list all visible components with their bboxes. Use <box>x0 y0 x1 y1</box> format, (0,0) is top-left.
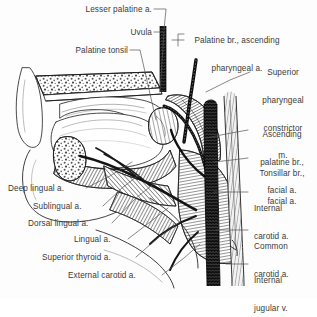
label-uvula: Uvula <box>102 28 152 37</box>
label-palatine-tonsil: Palatine tonsil <box>60 46 128 55</box>
label-line: jugular v. <box>254 304 316 313</box>
label-line: Internal <box>254 276 316 285</box>
label-lingual-a: Lingual a. <box>74 235 130 244</box>
label-dorsal-lingual-a: Dorsal lingual a. <box>28 219 114 228</box>
label-sublingual-a: Sublingual a. <box>33 202 105 211</box>
label-lesser-palatine-a: Lesser palatine a. <box>66 5 152 14</box>
label-line: Ascending <box>250 130 314 139</box>
label-line: Common <box>254 242 316 251</box>
label-line: Superior <box>252 68 314 77</box>
label-superior-thyroid-a: Superior thyroid a. <box>42 253 138 262</box>
label-line: Internal <box>254 204 316 213</box>
mandible-cross-section <box>53 136 86 180</box>
label-line: Palatine br., ascending <box>184 36 290 45</box>
label-deep-lingual-a: Deep lingual a. <box>8 184 88 193</box>
label-line: pharyngeal <box>252 96 314 105</box>
label-external-carotid-a: External carotid a. <box>68 271 164 280</box>
label-line: Tonsillar br., <box>250 169 314 178</box>
label-internal-jugular-v: Internal jugular v. <box>254 258 316 317</box>
